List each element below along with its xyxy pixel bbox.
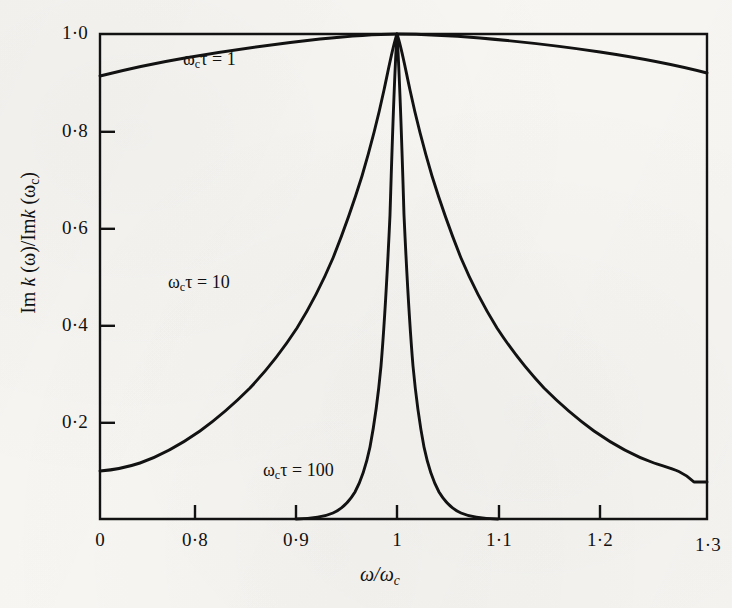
y-axis-ticks xyxy=(100,132,115,423)
curve-label-wct-100: ωcτ = 100 xyxy=(263,460,334,483)
curve-label-wct-10: ωcτ = 10 xyxy=(168,272,230,295)
x-tick-label-1-2: 1·2 xyxy=(575,529,625,551)
curve-label-wct-1: ωcτ = 1 xyxy=(183,49,236,72)
x-tick-label-0-9: 0·9 xyxy=(271,529,321,551)
curve-label-wct-100-rest: τ = 100 xyxy=(280,460,333,480)
y-axis-title-p5: (ω xyxy=(17,185,39,210)
x-axis-title: ω/ωc xyxy=(360,563,400,589)
x-tick-label-1-3: 1·3 xyxy=(683,534,732,556)
curve-label-wct-1-rest: τ = 1 xyxy=(200,49,235,69)
x-axis-title-sub: c xyxy=(394,573,400,588)
y-axis-title-p1: Im xyxy=(17,287,39,314)
curve-label-wct-1-base: ω xyxy=(183,49,195,69)
y-axis-title-p4: k xyxy=(17,210,39,219)
x-axis-title-base: ω/ω xyxy=(360,563,394,585)
x-tick-label-1-1: 1·1 xyxy=(474,529,524,551)
y-axis-title-p2: k xyxy=(17,278,39,287)
y-axis-title: Im k (ω)/Imk (ωc) xyxy=(17,63,43,423)
y-tick-label-1-0: 1·0 xyxy=(10,22,88,44)
curve-label-wct-10-base: ω xyxy=(168,272,180,292)
y-axis-title-p6: c xyxy=(27,179,42,185)
curve-wct-10 xyxy=(100,34,707,482)
curve-label-wct-10-rest: τ = 10 xyxy=(185,272,229,292)
y-axis-title-p3: (ω)/Im xyxy=(17,218,39,277)
x-axis-ticks xyxy=(195,505,600,519)
figure-container: 1·0 0·8 0·6 0·4 0·2 0 0·8 0·9 1 1·1 1·2 … xyxy=(0,0,732,608)
x-tick-label-0: 0 xyxy=(77,529,123,551)
y-axis-title-p7: ) xyxy=(17,172,39,179)
curve-label-wct-100-base: ω xyxy=(263,460,275,480)
x-tick-label-0-8: 0·8 xyxy=(170,529,220,551)
chart-plot-area xyxy=(0,0,732,608)
x-tick-label-1: 1 xyxy=(374,529,420,551)
